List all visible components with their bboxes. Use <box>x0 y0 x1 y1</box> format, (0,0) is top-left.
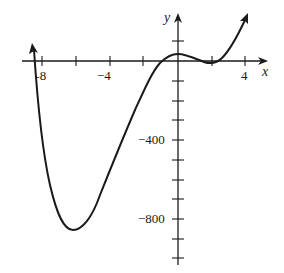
function-graph: ‐8 −4 4 x −400 −800 y <box>0 0 284 273</box>
y-tick-label--400: −400 <box>138 132 165 147</box>
x-axis-label: x <box>261 64 269 79</box>
x-tick-label--8: ‐8 <box>36 68 46 83</box>
x-axis: ‐8 −4 4 x <box>22 56 269 83</box>
function-curve <box>34 20 245 230</box>
x-tick-label-4: 4 <box>241 68 248 83</box>
x-tick-label--4: −4 <box>97 68 111 83</box>
y-axis-label: y <box>162 10 171 25</box>
y-axis: −400 −800 y <box>138 10 184 265</box>
y-tick-label--800: −800 <box>138 211 165 226</box>
